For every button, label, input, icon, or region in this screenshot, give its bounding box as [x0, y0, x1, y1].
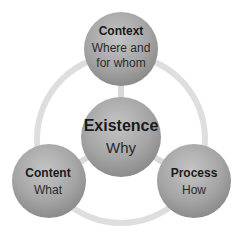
- node-context-title: Context: [92, 24, 151, 38]
- node-content-subtitle: What: [25, 184, 70, 198]
- node-context-subtitle-line2: for whom: [92, 57, 151, 72]
- node-context: Context Where and for whom: [92, 24, 151, 71]
- node-context-subtitle-line1: Where and: [92, 42, 151, 57]
- center-title: Existence: [84, 116, 159, 135]
- node-process-subtitle: How: [171, 184, 218, 198]
- node-process-title: Process: [171, 166, 218, 180]
- node-process: Process How: [171, 166, 218, 198]
- node-content: Content What: [25, 166, 70, 198]
- center-existence: Existence Why: [84, 116, 159, 157]
- node-content-title: Content: [25, 166, 70, 180]
- center-subtitle: Why: [84, 140, 159, 158]
